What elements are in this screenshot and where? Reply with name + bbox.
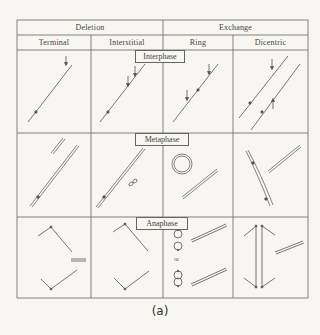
column-header-terminal: Terminal <box>17 38 91 47</box>
interphase-drawings <box>28 56 300 130</box>
column-header-ring: Ring <box>163 38 233 47</box>
phase-label-interphase: Interphase <box>135 50 185 63</box>
chromosome-aberration-figure: Deletion Exchange Terminal Interstitial … <box>0 0 320 335</box>
column-header-interstitial: Interstitial <box>91 38 163 47</box>
header-deletion: Deletion <box>17 23 163 32</box>
or-label: or <box>174 256 179 262</box>
header-exchange: Exchange <box>163 23 308 32</box>
phase-label-anaphase: Anaphase <box>136 217 188 230</box>
metaphase-drawings <box>30 138 301 208</box>
figure-caption: (a) <box>0 304 320 318</box>
column-header-dicentric: Dicentric <box>233 38 308 47</box>
anaphase-drawings <box>38 223 304 290</box>
phase-label-metaphase: Metaphase <box>135 133 189 146</box>
